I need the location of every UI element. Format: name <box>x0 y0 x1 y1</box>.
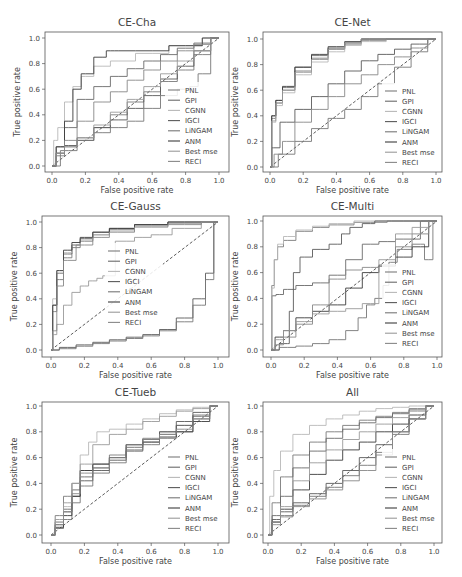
y-tick-label: 1.0 <box>29 35 40 43</box>
legend-label: RECI <box>125 319 141 327</box>
x-tick-label: 0.6 <box>146 548 158 556</box>
y-tick-label: 0.0 <box>29 163 40 171</box>
x-axis-label: False positive rate <box>316 371 389 380</box>
y-tick-label: 0.2 <box>247 321 258 329</box>
legend-label: PNL <box>402 454 415 462</box>
legend-label: Best mse <box>125 309 158 317</box>
chart-title: CE-Cha <box>118 16 156 28</box>
y-tick-label: 0.6 <box>247 454 259 462</box>
x-tick-label: 0.8 <box>179 362 190 370</box>
y-tick-label: 0.4 <box>26 295 38 303</box>
x-tick-label: 1.0 <box>430 177 441 185</box>
legend-label: LiNGAM <box>185 127 212 135</box>
legend-label: Best mse <box>402 515 435 523</box>
x-tick-label: 0.2 <box>79 362 90 370</box>
x-tick-label: 0.2 <box>298 177 309 185</box>
y-axis-label: True positive rate <box>13 67 22 138</box>
x-axis-label: False positive rate <box>316 557 389 566</box>
legend-label: GPI <box>185 97 197 105</box>
y-axis-label: True positive rate <box>10 252 19 323</box>
x-tick-label: 0.4 <box>329 548 341 556</box>
y-tick-label: 1.0 <box>247 218 258 226</box>
x-axis-label: False positive rate <box>101 186 174 195</box>
roc-figure: CE-Cha0.00.20.40.60.81.00.00.20.40.60.81… <box>0 0 462 577</box>
legend-label: IGCI <box>402 484 416 492</box>
x-axis-label: False positive rate <box>316 186 389 195</box>
y-tick-label: 0.6 <box>26 270 38 278</box>
chart-panel-ce-cha: CE-Cha0.00.20.40.60.81.00.00.20.40.60.81… <box>13 16 229 195</box>
y-axis-label: True positive rate <box>10 438 19 509</box>
y-tick-label: 0.2 <box>247 506 258 514</box>
legend-label: IGCI <box>185 484 199 492</box>
legend-label: LiNGAM <box>125 288 152 296</box>
legend-label: ANM <box>402 139 418 147</box>
legend-label: CGNN <box>125 268 146 276</box>
legend: PNLGPICGNNIGCILiNGAMANMBest mseRECI <box>105 243 163 327</box>
legend-label: LiNGAM <box>402 309 429 317</box>
y-tick-label: 1.0 <box>26 219 37 227</box>
y-tick-label: 0.6 <box>247 269 259 277</box>
legend: PNLGPICGNNIGCILiNGAMANMBest mseRECI <box>382 264 440 348</box>
y-tick-label: 0.8 <box>247 243 258 251</box>
y-tick-label: 1.0 <box>247 36 258 44</box>
legend-label: CGNN <box>402 474 423 482</box>
chart-title: All <box>346 386 359 398</box>
y-tick-label: 0.2 <box>26 506 37 514</box>
legend-label: PNL <box>185 454 198 462</box>
y-axis-label: True positive rate <box>231 252 240 323</box>
x-tick-label: 0.0 <box>262 548 273 556</box>
chart-panel-ce-gauss: CE-Gauss0.00.20.40.60.81.00.00.20.40.60.… <box>10 200 229 380</box>
x-tick-label: 1.0 <box>213 177 224 185</box>
legend-label: LiNGAM <box>402 128 429 136</box>
legend-label: Best mse <box>402 330 435 338</box>
y-tick-label: 1.0 <box>26 403 37 411</box>
y-tick-label: 0.0 <box>247 347 258 355</box>
y-tick-label: 0.4 <box>247 295 259 303</box>
y-tick-label: 0.6 <box>247 87 259 95</box>
x-tick-label: 0.8 <box>397 177 408 185</box>
legend-label: CGNN <box>185 107 206 115</box>
chart-panel-ce-net: CE-Net0.00.20.40.60.81.00.00.20.40.60.81… <box>231 16 442 195</box>
y-tick-label: 1.0 <box>247 403 258 411</box>
y-tick-label: 0.6 <box>29 86 41 94</box>
x-tick-label: 0.2 <box>79 548 90 556</box>
y-tick-label: 0.8 <box>26 428 37 436</box>
x-tick-label: 0.8 <box>395 548 406 556</box>
y-tick-label: 0.4 <box>247 480 259 488</box>
x-tick-label: 1.0 <box>428 548 439 556</box>
x-tick-label: 1.0 <box>431 362 442 370</box>
x-tick-label: 0.6 <box>364 177 376 185</box>
legend-label: Best mse <box>402 149 435 157</box>
legend-label: IGCI <box>185 117 199 125</box>
y-tick-label: 0.4 <box>29 111 41 119</box>
y-tick-label: 0.8 <box>247 428 258 436</box>
y-tick-label: 0.2 <box>29 137 40 145</box>
y-tick-label: 0.6 <box>26 454 38 462</box>
x-tick-label: 0.8 <box>180 177 191 185</box>
legend-label: ANM <box>125 299 141 307</box>
legend-label: CGNN <box>402 108 423 116</box>
legend-label: PNL <box>125 248 138 256</box>
x-tick-label: 0.6 <box>147 177 159 185</box>
legend-label: IGCI <box>402 299 416 307</box>
legend-label: ANM <box>402 320 418 328</box>
x-tick-label: 0.6 <box>362 548 374 556</box>
legend-label: GPI <box>402 279 414 287</box>
x-tick-label: 1.0 <box>212 362 223 370</box>
y-tick-label: 0.8 <box>29 60 40 68</box>
chart-panel-all: All0.00.20.40.60.81.00.00.20.40.60.81.0F… <box>231 386 442 566</box>
y-tick-label: 0.0 <box>247 164 258 172</box>
y-tick-label: 0.0 <box>26 532 37 540</box>
legend: PNLGPICGNNIGCILiNGAMANMBest mseRECI <box>165 449 223 533</box>
legend-label: IGCI <box>402 118 416 126</box>
legend-label: CGNN <box>402 289 423 297</box>
x-tick-label: 0.6 <box>365 362 377 370</box>
x-axis-label: False positive rate <box>99 557 172 566</box>
legend-label: GPI <box>402 464 414 472</box>
x-tick-label: 0.0 <box>265 362 276 370</box>
chart-title: CE-Tueb <box>115 386 157 398</box>
x-tick-label: 0.2 <box>80 177 91 185</box>
x-tick-label: 1.0 <box>212 548 223 556</box>
legend-label: LiNGAM <box>185 494 212 502</box>
x-tick-label: 0.0 <box>45 548 56 556</box>
